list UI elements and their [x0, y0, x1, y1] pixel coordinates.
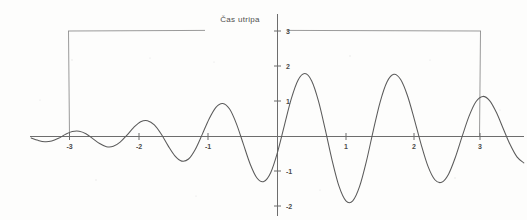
- y-tick-label-1: 1: [286, 98, 290, 105]
- y-tick-label--2: -2: [286, 203, 292, 210]
- x-tick-label--1: -1: [205, 143, 211, 150]
- x-tick-label-3: 3: [478, 143, 482, 150]
- x-tick-label-2: 2: [412, 143, 416, 150]
- x-tick-label--3: -3: [66, 143, 72, 150]
- y-tick-label--1: -1: [286, 168, 292, 175]
- bracket-top-left-segment: [68, 30, 205, 31]
- x-tick-label-1: 1: [344, 143, 348, 150]
- bracket-right-drop: [480, 31, 481, 137]
- bracket-left-drop: [69, 31, 70, 137]
- y-tick-label-3: 3: [286, 28, 290, 35]
- bracket-top-right-segment: [287, 30, 481, 31]
- y-tick-label-2: 2: [286, 63, 290, 70]
- wave-packet-chart: Čas utripa -3 -2 -1 1 2 3 3: [0, 0, 527, 220]
- pulse-duration-label: Čas utripa: [220, 15, 260, 24]
- scan-noise: [39, 55, 500, 196]
- pulse-duration-bracket: [68, 30, 481, 137]
- x-tick-label--2: -2: [136, 143, 142, 150]
- chart-screenshot: Čas utripa -3 -2 -1 1 2 3 3: [0, 0, 527, 220]
